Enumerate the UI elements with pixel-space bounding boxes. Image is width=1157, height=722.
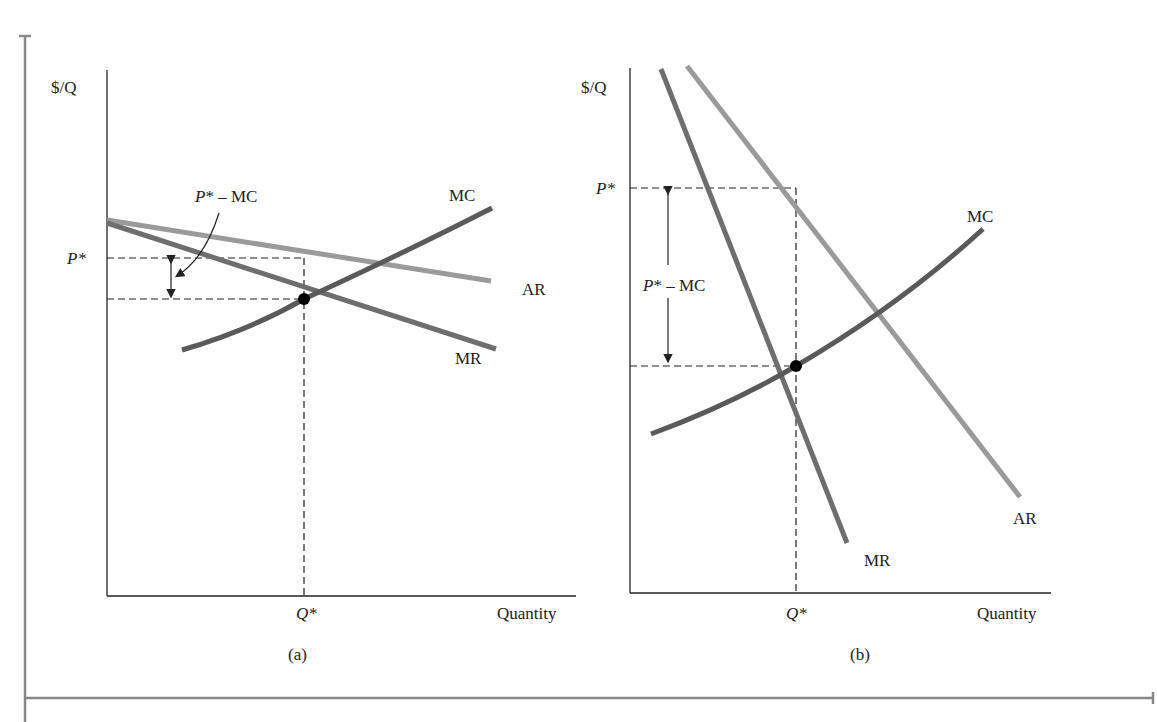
panel-b-p-star-label: P* [595, 179, 615, 198]
panel-a: $/Q Quantity P* Q* (a) P* – MC MC AR MR [51, 70, 576, 664]
panel-a-mc-label: MC [449, 186, 475, 205]
panel-a-ar-curve [107, 220, 491, 281]
panel-b-caption: (b) [850, 645, 870, 664]
panel-a-ar-label: AR [522, 280, 546, 299]
panel-a-mc-curve [182, 208, 492, 350]
panel-b-ar-curve [687, 66, 1020, 497]
panel-b-mc-label: MC [967, 207, 993, 226]
panel-b-mr-curve [661, 69, 847, 543]
panel-b-q-star-label: Q* [786, 604, 807, 623]
panel-b-equilibrium-point [790, 360, 802, 372]
panel-a-p-star-label: P* [66, 249, 86, 268]
panel-a-y-axis-label: $/Q [51, 78, 77, 97]
panel-a-x-axis-label: Quantity [497, 604, 557, 623]
panel-b-x-axis-label: Quantity [977, 604, 1037, 623]
panel-b-markup-label: P* – MC [642, 276, 705, 295]
panel-b-y-axis-label: $/Q [581, 78, 607, 97]
panel-a-q-star-label: Q* [296, 604, 317, 623]
panel-a-caption: (a) [288, 645, 307, 664]
panel-b-ar-label: AR [1013, 509, 1037, 528]
panel-a-markup-label: P* – MC [194, 187, 257, 206]
panel-b: $/Q Quantity P* Q* (b) P* – MC MC AR MR [581, 66, 1051, 664]
panel-b-mr-label: MR [864, 551, 891, 570]
figure-canvas: $/Q Quantity P* Q* (a) P* – MC MC AR MR … [0, 0, 1157, 722]
panel-a-mr-label: MR [455, 349, 482, 368]
panel-a-markup-pointer-arrow [177, 213, 219, 276]
panel-b-mc-curve [651, 229, 983, 434]
panel-a-equilibrium-point [298, 293, 310, 305]
panel-a-mr-curve [107, 223, 496, 349]
